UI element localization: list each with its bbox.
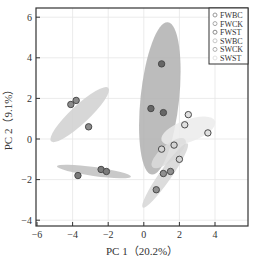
ellipse-fwbc	[45, 81, 115, 148]
y-tick-label: −2	[21, 174, 32, 185]
point-swst	[160, 170, 166, 176]
point-fwst	[148, 105, 154, 111]
y-axis-label: PC 2（9.1%）	[2, 84, 14, 151]
legend-label: SWST	[220, 54, 241, 63]
point-swbc	[185, 111, 191, 117]
y-tick-label: 2	[27, 93, 32, 104]
point-fwst	[158, 61, 164, 67]
point-swst	[153, 187, 159, 193]
x-tick-label: −2	[103, 229, 114, 240]
confidence-ellipses	[45, 20, 219, 211]
y-tick-label: 0	[27, 134, 32, 145]
point-swck	[176, 156, 182, 162]
x-axis-label: PC 1（20.2%）	[106, 245, 178, 257]
point-fwst	[160, 109, 166, 115]
point-fwbc	[73, 97, 79, 103]
ellipse-fwck	[56, 162, 131, 181]
point-swck	[171, 142, 177, 148]
point-swbc	[182, 122, 188, 128]
point-fwck	[103, 168, 109, 174]
point-fwck	[75, 172, 81, 178]
x-tick-label: 4	[213, 229, 218, 240]
point-swck	[158, 146, 164, 152]
x-tick-label: −6	[32, 229, 43, 240]
y-axis-ticks: −4−20246	[21, 12, 40, 226]
y-tick-label: 4	[27, 52, 32, 63]
y-tick-label: 6	[27, 12, 32, 23]
x-axis-ticks: −6−4−2024	[32, 222, 218, 240]
point-fwbc	[85, 124, 91, 130]
point-swst	[167, 168, 173, 174]
x-tick-label: 0	[141, 229, 146, 240]
pca-scatter-chart: −6−4−2024 −4−20246 PC 1（20.2%） PC 2（9.1%…	[0, 0, 257, 261]
legend: FWBCFWCKFWSTSWBCSWCKSWST	[209, 8, 248, 64]
x-tick-label: −4	[67, 229, 78, 240]
point-swbc	[205, 130, 211, 136]
x-tick-label: 2	[177, 229, 182, 240]
y-tick-label: −4	[21, 215, 32, 226]
